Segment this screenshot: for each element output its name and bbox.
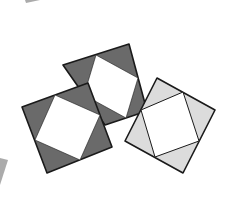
- square-group: [22, 44, 215, 173]
- bottom-left-fragment: [0, 158, 8, 185]
- edge-artifacts: [0, 0, 40, 185]
- squares-diagram: [0, 0, 232, 211]
- top-left-fragment: [25, 0, 40, 3]
